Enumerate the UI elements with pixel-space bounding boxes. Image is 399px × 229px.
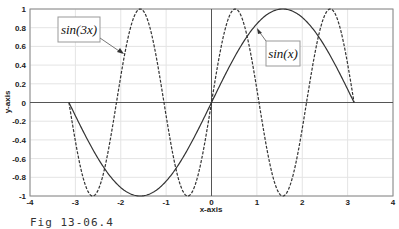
x-tick-label: 1 (255, 198, 260, 207)
x-tick-label: -1 (163, 198, 171, 207)
y-tick-label: -0.4 (12, 136, 26, 145)
x-tick-label: -4 (26, 198, 34, 207)
y-tick-label: 0.8 (15, 24, 27, 33)
x-tick-label: -3 (72, 198, 80, 207)
x-tick-label: 3 (345, 198, 350, 207)
annotation-sinx: sin(x) (257, 28, 300, 66)
annotation-text: sin(x) (268, 46, 298, 61)
arrowhead-icon (257, 28, 262, 34)
y-tick-labels: -1-0.8-0.6-0.4-0.200.20.40.60.81 (12, 5, 26, 201)
y-tick-label: 0 (22, 99, 27, 108)
y-tick-label: -0.8 (12, 173, 26, 182)
y-tick-label: 0.6 (15, 42, 27, 51)
figure-caption: Fig 13-06.4 (30, 216, 114, 229)
y-tick-label: -1 (19, 192, 27, 201)
x-axis-label: x-axis (200, 205, 223, 214)
y-tick-label: 1 (22, 5, 27, 14)
y-tick-label: -0.2 (12, 117, 26, 126)
annotation-text: sin(3x) (61, 22, 97, 37)
x-tick-label: 2 (300, 198, 305, 207)
line-chart: -4-3-2-101234 -1-0.8-0.6-0.4-0.200.20.40… (0, 0, 399, 229)
annotation-sin3x: sin(3x) (58, 17, 124, 54)
x-tick-label: -2 (117, 198, 125, 207)
y-axis-label: y-axis (3, 90, 12, 113)
y-tick-label: 0.4 (15, 61, 27, 70)
y-tick-label: 0.2 (15, 80, 27, 89)
x-tick-label: 4 (391, 198, 396, 207)
y-tick-label: -0.6 (12, 155, 26, 164)
